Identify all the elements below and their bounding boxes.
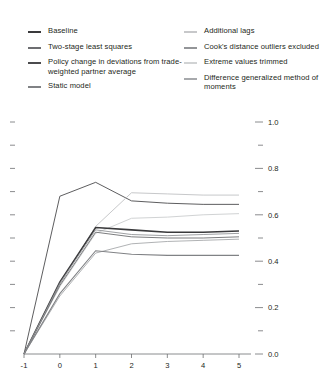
chart-legend: BaselineTwo-stage least squaresPolicy ch… — [0, 0, 329, 110]
legend-item-label: Cook's distance outliers excluded — [204, 42, 329, 52]
legend-swatch-extreme-values-trimmed — [184, 62, 197, 64]
legend-swatch-additional-lags — [184, 31, 197, 33]
legend-item-label: Policy change in deviations from trade-w… — [48, 57, 188, 76]
x-tick-label: -1 — [21, 361, 28, 370]
legend-swatch-difference-gmm — [184, 78, 197, 80]
legend-item[interactable]: Static model — [28, 81, 188, 92]
legend-item[interactable]: Extreme values trimmed — [184, 57, 329, 68]
legend-column-left: BaselineTwo-stage least squaresPolicy ch… — [28, 26, 188, 96]
line-chart-svg: -10123450.00.20.40.60.81.0 — [0, 110, 329, 390]
legend-item[interactable]: Two-stage least squares — [28, 42, 188, 53]
series-line — [24, 182, 239, 354]
legend-item-label: Additional lags — [204, 26, 329, 36]
legend-item-label: Difference generalized method of moments — [204, 73, 329, 92]
legend-item[interactable]: Difference generalized method of moments — [184, 73, 329, 92]
y-tick-label: 0.0 — [268, 350, 279, 359]
figure-root: BaselineTwo-stage least squaresPolicy ch… — [0, 0, 329, 390]
y-tick-label: 0.2 — [268, 303, 279, 312]
legend-item[interactable]: Additional lags — [184, 26, 329, 37]
legend-swatch-baseline — [28, 31, 41, 33]
legend-item[interactable]: Policy change in deviations from trade-w… — [28, 57, 188, 76]
legend-swatch-two-stage-least-squares — [28, 47, 41, 49]
series-line — [24, 232, 239, 354]
x-tick-label: 5 — [237, 361, 241, 370]
y-tick-label: 0.8 — [268, 164, 279, 173]
legend-swatch-static-model — [28, 86, 41, 88]
series-line — [24, 193, 239, 354]
legend-item-label: Extreme values trimmed — [204, 57, 329, 67]
legend-swatch-cooks-distance — [184, 47, 197, 49]
y-tick-label: 1.0 — [268, 118, 279, 127]
x-tick-label: 1 — [94, 361, 98, 370]
x-tick-label: 3 — [165, 361, 169, 370]
legend-column-right: Additional lagsCook's distance outliers … — [184, 26, 329, 96]
plot-area: -10123450.00.20.40.60.81.0 — [0, 110, 329, 390]
legend-item-label: Two-stage least squares — [48, 42, 188, 52]
y-tick-label: 0.6 — [268, 211, 279, 220]
legend-item-label: Static model — [48, 81, 188, 91]
legend-item[interactable]: Baseline — [28, 26, 188, 37]
legend-item[interactable]: Cook's distance outliers excluded — [184, 42, 329, 53]
x-tick-label: 0 — [58, 361, 62, 370]
legend-swatch-policy-change — [28, 62, 41, 64]
y-tick-label: 0.4 — [268, 257, 279, 266]
series-line — [24, 239, 239, 354]
legend-item-label: Baseline — [48, 26, 188, 36]
x-tick-label: 4 — [201, 361, 205, 370]
x-tick-label: 2 — [129, 361, 133, 370]
